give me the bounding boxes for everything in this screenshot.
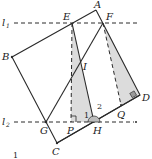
label-f: F: [105, 11, 114, 22]
point-c: [56, 142, 58, 144]
label-c: C: [52, 146, 60, 157]
l2-end-dot: [135, 121, 137, 123]
label-angle-2: 2: [97, 102, 102, 111]
caption-number: 1: [13, 151, 18, 159]
label-e: E: [62, 11, 71, 22]
label-l1: l: [2, 17, 5, 28]
point-g: [45, 121, 48, 124]
label-angle-1: 1: [84, 111, 89, 120]
label-d: D: [141, 92, 150, 103]
label-l2-sub: 2: [5, 121, 10, 128]
label-p: P: [66, 125, 74, 136]
label-q: Q: [117, 109, 125, 120]
geometry-figure: l 1 l 2 A E F B I G P H Q D C 1 2 1: [0, 0, 152, 159]
label-h: H: [92, 125, 102, 136]
label-l1-sub: 1: [6, 22, 10, 29]
label-b: B: [1, 51, 9, 62]
label-g: G: [40, 125, 48, 136]
label-i: I: [82, 61, 88, 72]
point-q: [120, 104, 122, 106]
label-a: A: [93, 0, 101, 10]
point-b: [11, 56, 13, 58]
label-l2: l: [2, 116, 5, 127]
